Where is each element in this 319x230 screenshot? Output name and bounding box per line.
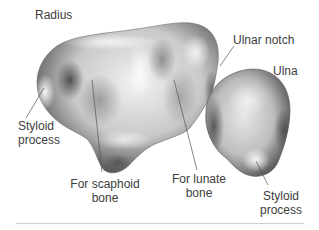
label-ulna: Ulna — [273, 64, 298, 78]
label-ulnar-notch: Ulnar notch — [233, 33, 294, 47]
leader-line-ulnar-notch — [220, 46, 234, 66]
bottom-divider — [16, 223, 304, 224]
label-radial-styloid-process: Styloid process — [18, 119, 60, 147]
label-for-lunate-bone: For lunate bone — [170, 172, 228, 200]
label-ulnar-styloid-process: Styloid process — [258, 189, 304, 217]
label-for-scaphoid-bone: For scaphoid bone — [70, 177, 140, 205]
leader-line-radial-styloid — [26, 88, 44, 118]
label-radius: Radius — [35, 8, 72, 22]
anatomy-diagram: Radius Ulnar notch Ulna Styloid process … — [0, 0, 319, 230]
ulna-bone — [204, 69, 294, 176]
